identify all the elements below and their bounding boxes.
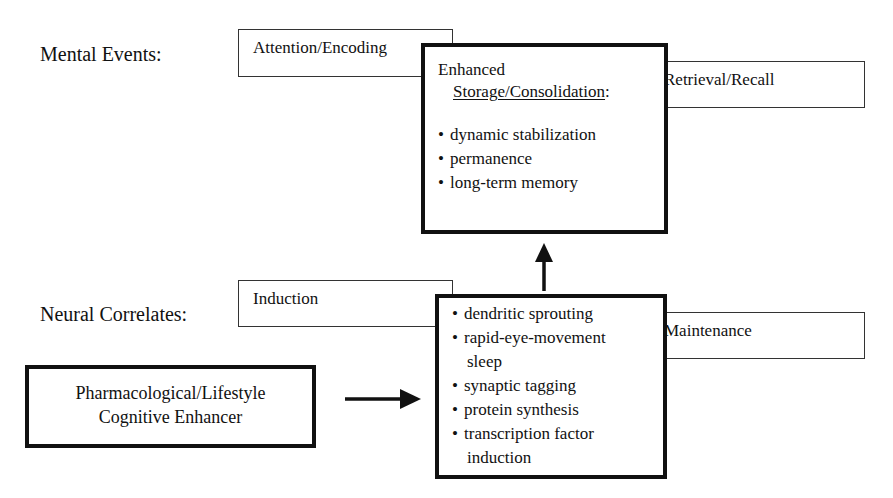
neural-bullet-item: dendritic sprouting — [452, 302, 663, 326]
neural-bullet-text: dendritic sprouting — [464, 304, 593, 323]
storage-title-underlined: Storage/Consolidation — [453, 82, 605, 101]
retrieval-recall-box: Retrieval/Recall — [650, 61, 865, 108]
storage-bullet-item: long-term memory — [438, 171, 664, 195]
enhancer-line1: Pharmacological/Lifestyle — [29, 381, 312, 405]
arrow-up-icon — [534, 242, 554, 292]
cognitive-enhancer-box: Pharmacological/Lifestyle Cognitive Enha… — [25, 365, 316, 448]
storage-consolidation-box: Enhanced Storage/Consolidation: dynamic … — [421, 43, 668, 234]
storage-bullet-item: permanence — [438, 147, 664, 171]
storage-title-line1: Enhanced — [438, 59, 664, 81]
maintenance-label: Maintenance — [664, 321, 752, 340]
neural-bullet-item: transcription factorinduction — [452, 422, 663, 470]
storage-title-colon: : — [605, 82, 610, 101]
neural-bullet-item: synaptic tagging — [452, 374, 663, 398]
neural-bullet-list: dendritic sprouting rapid-eye-movementsl… — [452, 302, 663, 470]
mental-events-label: Mental Events: — [40, 43, 162, 66]
storage-bullet-list: dynamic stabilization permanence long-te… — [438, 123, 664, 195]
storage-title-line2: Storage/Consolidation: — [438, 81, 664, 103]
neural-bullet-text: synaptic tagging — [464, 376, 576, 395]
neural-bullet-text: rapid-eye-movement — [464, 326, 663, 350]
storage-bullet-item: dynamic stabilization — [438, 123, 664, 147]
neural-bullet-text-cont: sleep — [464, 350, 663, 374]
attention-encoding-label: Attention/Encoding — [253, 38, 387, 57]
neural-mechanisms-box: dendritic sprouting rapid-eye-movementsl… — [435, 294, 667, 479]
induction-box: Induction — [238, 280, 453, 327]
neural-bullet-item: rapid-eye-movementsleep — [452, 326, 663, 374]
maintenance-box: Maintenance — [650, 312, 865, 359]
neural-bullet-text: protein synthesis — [464, 400, 579, 419]
enhancer-line2: Cognitive Enhancer — [29, 405, 312, 429]
neural-bullet-text-cont: induction — [464, 446, 663, 470]
arrow-right-icon — [344, 388, 422, 410]
neural-bullet-text: transcription factor — [464, 422, 663, 446]
retrieval-recall-label: Retrieval/Recall — [664, 70, 774, 89]
neural-bullet-item: protein synthesis — [452, 398, 663, 422]
induction-label: Induction — [253, 289, 318, 308]
neural-correlates-label: Neural Correlates: — [40, 303, 187, 326]
